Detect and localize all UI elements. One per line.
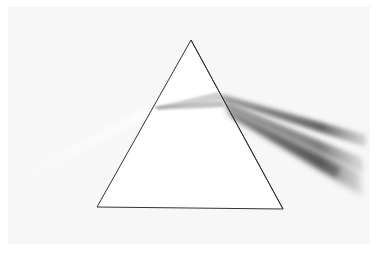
prism-scene	[0, 0, 378, 253]
prism-illustration	[0, 0, 378, 253]
